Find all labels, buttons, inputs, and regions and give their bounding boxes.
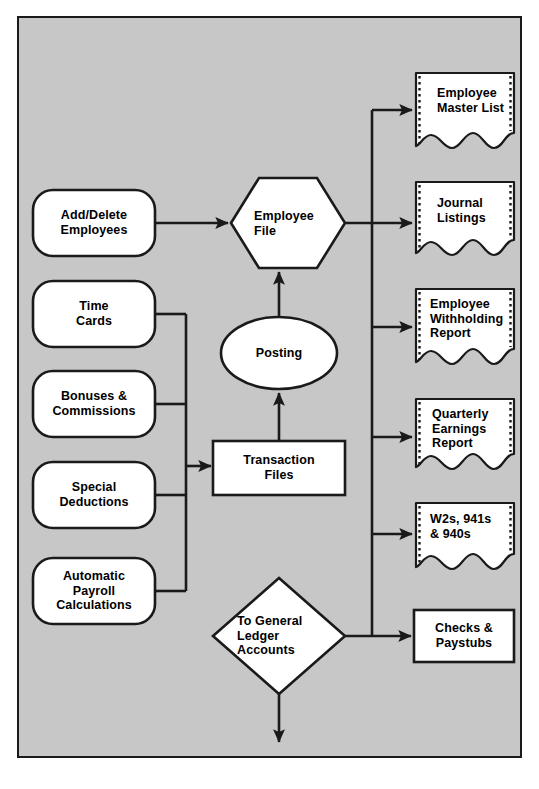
label-employee-withholding-report: Employee Withholding Report xyxy=(430,297,516,341)
label-w2s-941s-940s: W2s, 941s & 940s xyxy=(430,512,516,541)
label-bonuses-commissions: Bonuses & Commissions xyxy=(33,389,155,418)
label-journal-listings: Journal Listings xyxy=(437,196,515,225)
label-checks-paystubs: Checks & Paystubs xyxy=(414,621,514,650)
label-time-cards: Time Cards xyxy=(33,299,155,328)
label-transaction-files: Transaction Files xyxy=(213,453,345,482)
flowchart-canvas: Add/Delete Employees Time Cards Bonuses … xyxy=(0,0,539,789)
label-automatic-payroll-calculations: Automatic Payroll Calculations xyxy=(33,569,155,613)
label-special-deductions: Special Deductions xyxy=(33,480,155,509)
label-add-delete-employees: Add/Delete Employees xyxy=(33,208,155,237)
label-employee-file: Employee File xyxy=(254,209,354,238)
label-posting: Posting xyxy=(221,346,337,361)
label-employee-master-list: Employee Master List xyxy=(437,86,515,115)
label-quarterly-earnings-report: Quarterly Earnings Report xyxy=(432,407,518,451)
label-to-general-ledger-accounts: To General Ledger Accounts xyxy=(237,614,337,658)
